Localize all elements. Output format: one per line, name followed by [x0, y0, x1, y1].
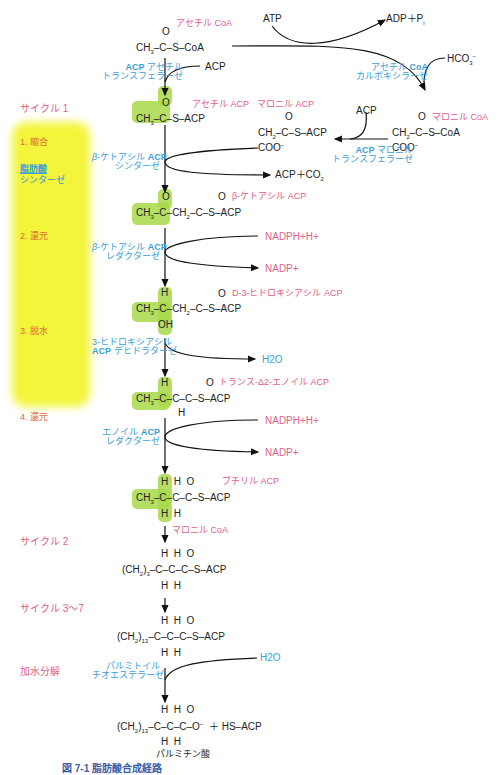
enzyme-ketoacyl-synthase: β-ケトアシル ACPシンターゼ [92, 153, 160, 171]
step4-label: 4. 還元 [20, 413, 48, 422]
hydroxyacyl-acp-label: D-3-ヒドロキシアシル ACP [232, 289, 343, 298]
enzyme-acp-acetyl-transferase: ACP アセチルトランスフェラーゼ [102, 63, 183, 81]
h2o-input: H2O [260, 653, 281, 663]
adp-pi-label: ADP＋Pi [386, 14, 425, 26]
acp-co2-output: ACP＋CO2 [275, 170, 324, 182]
step2-label: 2. 還元 [20, 232, 48, 241]
oxygen: O [285, 112, 293, 122]
oxygen: O [218, 192, 226, 202]
malonyl-coa-input: マロニル CoA [172, 526, 228, 535]
figure-caption: 図 7-1 脂肪酸合成経路 [62, 760, 162, 775]
nadph-input-1: NADPH+H+ [265, 232, 319, 242]
malonyl-coa-label: マロニル CoA [432, 113, 488, 122]
acetyl-coa-label: アセチル CoA [176, 19, 232, 28]
enoyl-formula: CH3–C–C–C–S–ACP [136, 394, 231, 406]
acp-input: ACP [205, 62, 226, 72]
nadp-output-2: NADP+ [265, 448, 299, 458]
malonyl-coa-formula: CH2–C–S–CoA [392, 128, 460, 140]
hydrogen: H [161, 378, 168, 388]
fatty-acid-synthase-label: 脂肪酸シンターゼ [20, 164, 65, 186]
malonyl-acp-label: マロニル ACP [257, 100, 314, 109]
cycle2-title: サイクル 2 [20, 537, 68, 547]
palmitate-formula: (CH2)13–C–C–C–O− ＋ HS–ACP [117, 721, 262, 734]
hydrogen: H [178, 408, 185, 418]
malonyl-acp-formula: CH2–C–S–ACP [258, 128, 327, 140]
enzyme-acp-malonyl-transferase: ACP マロニルトランスフェラーゼ [332, 146, 413, 164]
hydroxyl: OH [158, 320, 173, 330]
acp-input-malonyl: ACP [356, 106, 377, 116]
butyryl-acp-label: ブチリル ACP [222, 477, 279, 486]
enzyme-hydroxyacyl-dehydratase: 3-ヒドロキシアシルACP デヒドラターゼ [92, 338, 160, 356]
ketoacyl-acp-formula: CH3–C–CH2–C–S–ACP [136, 208, 241, 220]
hydroxyacyl-formula: CH3–C–CH2–C–S–ACP [136, 304, 241, 316]
cycle3-7-title: サイクル 3～7 [20, 604, 84, 614]
enzyme-enoyl-reductase: エノイル ACPレダクターゼ [92, 428, 160, 446]
acetyl-coa-formula: CH3–C–S–CoA [136, 43, 204, 55]
enzyme-ketoacyl-reductase: β-ケトアシル ACPレダクターゼ [92, 243, 160, 261]
cycle3-7-formula: (CH2)13–C–C–C–S–ACP [117, 632, 225, 644]
acetyl-acp-formula: CH3–C–S–ACP [136, 114, 205, 126]
ketoacyl-acp-label: β-ケトアシル ACP [232, 192, 306, 201]
h2o-output: H2O [262, 355, 283, 365]
hydrolysis-title: 加水分解 [20, 667, 60, 677]
enzyme-acetyl-coa-carboxylase: アセチル CoAカルボキシラーゼ [356, 63, 428, 81]
nadp-output-1: NADP+ [265, 264, 299, 274]
step1-label: 1. 縮合 [20, 138, 48, 147]
enzyme-palmitoyl-thioesterase: パルミトイルチオエステラーゼ [92, 662, 160, 680]
oxygen: O [162, 27, 170, 37]
oxygen: O [418, 112, 426, 122]
atp-label: ATP [263, 14, 282, 24]
acetyl-acp-label: アセチル ACP [192, 100, 249, 109]
hco3-label: HCO3− [447, 53, 476, 66]
cycle2-formula: (CH2)3–C–C–C–S–ACP [122, 565, 227, 577]
malonyl-acp-coo: COO− [258, 142, 284, 153]
oxygen: O [162, 192, 170, 202]
oxygen: O [206, 378, 214, 388]
step3-label: 3. 脱水 [20, 327, 48, 336]
enoyl-acp-label: トランス-Δ2-エノイル ACP [219, 378, 329, 387]
palmitic-acid-label: パルミチン酸 [156, 750, 210, 759]
hydrogen: H [161, 288, 168, 298]
oxygen: O [162, 98, 170, 108]
cycle1-title: サイクル 1 [20, 104, 68, 114]
butyryl-formula: CH3–C–C–C–S–ACP [136, 493, 231, 505]
oxygen: O [218, 289, 226, 299]
nadph-input-2: NADPH+H+ [265, 416, 319, 426]
